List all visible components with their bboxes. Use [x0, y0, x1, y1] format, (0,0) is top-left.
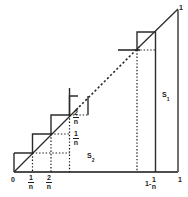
diagonal-line-lower-solid	[14, 108, 78, 172]
region-label-s2-text: S	[87, 152, 92, 159]
y-value-label-two-over-n: 2 n	[73, 109, 79, 126]
y-value-label-one-over-n: 1 n	[73, 130, 79, 147]
x-tick-label-one: 1	[178, 176, 182, 183]
x-tick-one-minus-fraction: 1 n	[152, 176, 156, 191]
y-one-over-n-numerator: 1	[74, 130, 78, 137]
y-two-over-n-numerator: 2	[74, 109, 78, 116]
staircase-upper-steps	[14, 96, 78, 153]
x-tick-two-over-n-denominator: n	[47, 183, 51, 190]
x-tick-one-minus-denominator: n	[152, 183, 156, 190]
x-tick-one-minus-lead: 1-	[145, 180, 151, 187]
diagonal-line-upper-solid	[137, 9, 178, 49]
diagonal-line-middle-dashed	[76, 47, 139, 110]
x-tick-label-one-minus-one-over-n: 1- 1 n	[145, 176, 156, 191]
region-label-s1: S1	[162, 91, 169, 100]
x-tick-one-over-n-denominator: n	[29, 183, 33, 190]
region-label-s1-text: S	[162, 91, 167, 98]
step-function-diagram	[0, 0, 188, 197]
y-one-over-n-denominator: n	[74, 139, 78, 146]
x-tick-label-one-over-n: 1 n	[28, 174, 34, 191]
region-label-s2: S2	[87, 152, 94, 161]
last-step-box	[137, 32, 156, 172]
y-axis-top-label-one: 1	[179, 4, 183, 11]
x-tick-one-minus-numerator: 1	[152, 176, 156, 183]
y-two-over-n-denominator: n	[74, 118, 78, 125]
x-tick-one-over-n-numerator: 1	[29, 174, 33, 181]
x-tick-two-over-n-numerator: 2	[47, 174, 51, 181]
figure-container: 0 1 n 2 n 1- 1 n 1 1 n 2 n 1 S1	[0, 0, 188, 197]
x-tick-label-two-over-n: 2 n	[46, 174, 52, 191]
x-tick-label-zero: 0	[11, 176, 15, 183]
